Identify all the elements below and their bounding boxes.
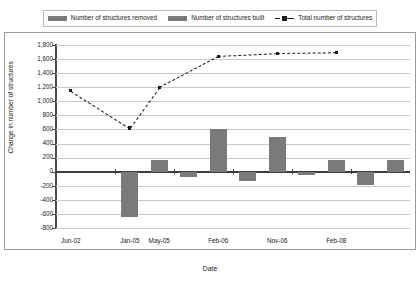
x-tick-mark — [115, 169, 116, 174]
gridline — [56, 101, 410, 102]
line-segment — [70, 91, 130, 129]
gridline — [56, 59, 410, 60]
y-tick-mark — [52, 172, 55, 173]
y-tick-mark — [52, 228, 55, 229]
y-tick-mark — [52, 59, 55, 60]
line-segment — [277, 53, 336, 55]
gridline — [56, 186, 410, 187]
gridline — [56, 73, 410, 74]
bar-swatch-icon — [168, 16, 187, 21]
bar — [269, 137, 286, 172]
y-tick-label: 1,600 — [37, 56, 53, 62]
bar — [298, 172, 315, 175]
x-tick-mark — [174, 169, 175, 174]
y-tick-mark — [52, 144, 55, 145]
x-tick-mark — [292, 169, 293, 174]
plot-area — [56, 45, 410, 228]
line-marker — [69, 89, 72, 92]
x-tick-mark — [233, 169, 234, 174]
line-segment — [218, 53, 277, 57]
legend-item-structures-built: Number of structures built — [168, 15, 264, 21]
gridline — [56, 87, 410, 88]
bar — [387, 160, 404, 171]
legend-label-total-structures: Total number of structures — [298, 15, 372, 21]
bar — [151, 160, 168, 172]
gridline — [56, 214, 410, 215]
dashed-line-marker-icon — [275, 16, 294, 22]
line-marker — [128, 126, 131, 129]
line-marker — [276, 52, 279, 55]
gridline — [56, 228, 410, 229]
y-tick-mark — [52, 186, 55, 187]
bar — [357, 172, 374, 185]
x-tick-label: Feb-06 — [208, 238, 228, 244]
y-tick-label: 1,000 — [37, 98, 53, 104]
x-tick-label: Nov-06 — [267, 238, 288, 244]
line-marker — [217, 55, 220, 58]
y-tick-label: 1,200 — [37, 84, 53, 90]
y-tick-label: 1,800 — [37, 42, 53, 48]
gridline — [56, 129, 410, 130]
line-marker — [335, 51, 338, 54]
x-tick-label: Jun-02 — [61, 238, 81, 244]
x-tick-mark — [351, 169, 352, 174]
y-tick-label: 1,400 — [37, 70, 53, 76]
bar — [121, 172, 138, 218]
y-tick-mark — [52, 158, 55, 159]
y-tick-mark — [52, 87, 55, 88]
line-marker — [158, 86, 161, 89]
legend-label-structures-removed: Number of structures removed — [71, 15, 157, 21]
x-tick-label: Feb-08 — [326, 238, 346, 244]
legend-item-total-structures: Total number of structures — [275, 15, 372, 21]
x-tick-label: Jan-05 — [120, 238, 140, 244]
bar — [180, 172, 197, 178]
chart-legend: Number of structures removed Number of s… — [43, 10, 377, 27]
gridline — [56, 158, 410, 159]
legend-label-structures-built: Number of structures built — [191, 15, 264, 21]
y-tick-mark — [52, 45, 55, 46]
bar — [239, 172, 256, 181]
y-tick-mark — [52, 129, 55, 130]
gridline — [56, 200, 410, 201]
y-tick-mark — [52, 115, 55, 116]
y-tick-mark — [52, 101, 55, 102]
y-axis-title: Change in number of structures — [8, 22, 15, 192]
legend-item-structures-removed: Number of structures removed — [48, 15, 157, 21]
gridline — [56, 45, 410, 46]
y-tick-mark — [52, 200, 55, 201]
bar — [328, 160, 345, 172]
chart-container: Number of structures removed Number of s… — [0, 0, 420, 286]
y-tick-mark — [52, 214, 55, 215]
line-segment — [130, 87, 160, 128]
gridline — [56, 144, 410, 145]
bar — [210, 129, 227, 171]
x-axis-title: Date — [0, 266, 420, 273]
y-tick-mark — [52, 73, 55, 74]
x-tick-label: May-05 — [149, 238, 170, 244]
